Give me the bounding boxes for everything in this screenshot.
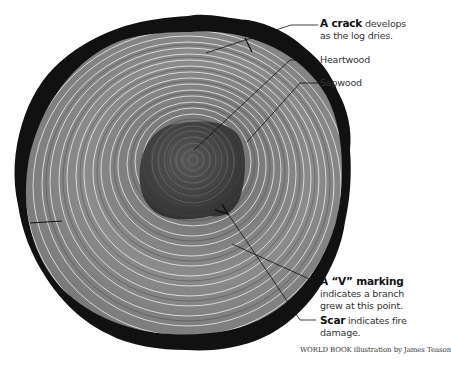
label-crack: A crack develops as the log dries. <box>320 17 412 42</box>
label-scar: Scar indicates fire damage. <box>320 314 412 339</box>
label-heartwood: Heartwood <box>320 54 412 66</box>
heartwood <box>140 121 245 219</box>
illustration-credit: WORLD BOOK illustration by James Teason <box>300 346 451 354</box>
label-v-marking: A “V” marking indicates a branch grew at… <box>320 275 414 312</box>
label-sapwood: Sapwood <box>320 77 412 89</box>
